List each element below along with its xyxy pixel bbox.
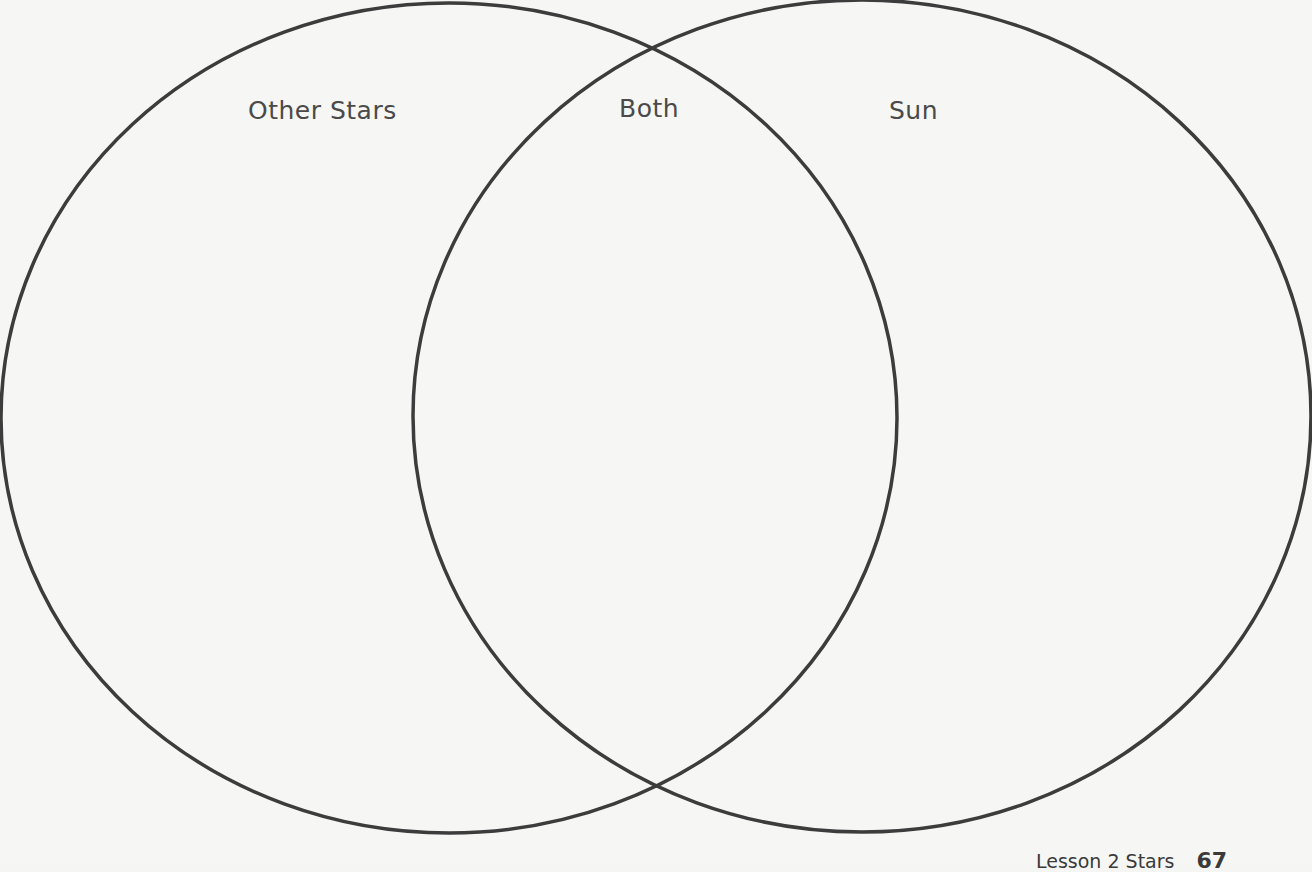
label-other-stars: Other Stars	[248, 96, 397, 125]
venn-circle-sun	[413, 0, 1311, 832]
page-number: 67	[1196, 848, 1227, 872]
venn-circle-other-stars	[1, 3, 897, 833]
label-sun: Sun	[889, 96, 938, 125]
page-footer: Lesson 2 Stars67	[1036, 848, 1227, 872]
label-both: Both	[619, 94, 679, 123]
lesson-title: Lesson 2 Stars	[1036, 850, 1174, 872]
